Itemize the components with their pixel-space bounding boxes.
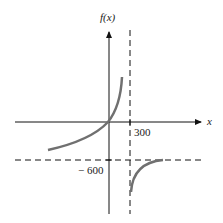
right-branch-curve xyxy=(131,160,163,192)
x-axis-label: x xyxy=(206,115,212,127)
y-axis-label: f(x) xyxy=(100,11,116,24)
x-tick-label: 300 xyxy=(134,126,151,138)
left-branch-curve xyxy=(48,77,122,150)
function-graph: f(x) x 300 − 600 xyxy=(0,0,223,223)
y-tick-label: − 600 xyxy=(78,164,104,176)
